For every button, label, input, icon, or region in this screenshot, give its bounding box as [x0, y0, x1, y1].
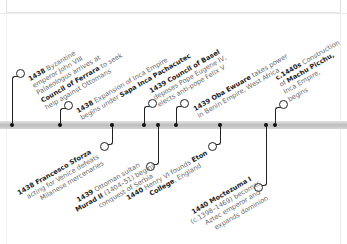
- connector-line: [275, 111, 276, 124]
- connector-line: [266, 126, 267, 181]
- connector-line: [60, 112, 61, 124]
- event-marker-icon: [16, 69, 25, 78]
- page-frame-top: [6, 0, 341, 13]
- connector-line: [112, 126, 113, 140]
- event-label: c.1440s Construction of Machu Picchu, In…: [274, 39, 347, 104]
- connector-line: [144, 110, 145, 124]
- connector-line: [220, 126, 221, 140]
- connector-line: [12, 80, 13, 124]
- event-marker-icon: [279, 100, 288, 109]
- margin-rule-left: [6, 14, 7, 244]
- event-marker-icon: [208, 142, 217, 151]
- divider: [0, 13, 347, 14]
- event-label: 1440 Moctezuma I (c.1398–1469) becomes A…: [185, 172, 270, 240]
- event-marker-icon: [180, 99, 189, 108]
- event-marker-icon: [64, 101, 73, 110]
- event-marker-icon: [100, 142, 109, 151]
- connector-line: [176, 110, 177, 124]
- connector-line: [158, 126, 159, 160]
